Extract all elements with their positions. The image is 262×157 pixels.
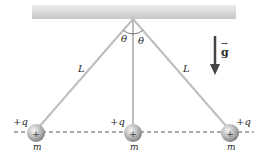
string-left (39, 19, 133, 127)
pendulum-diagram: + + + θ θ L L → g +q +q +q m m m (0, 0, 262, 157)
plus-icon: + (226, 129, 234, 139)
plus-icon: + (32, 129, 40, 139)
charge-label-center: +q (110, 117, 125, 127)
charge-label-right: +q (236, 117, 251, 127)
angle-label-right: θ (138, 36, 144, 46)
string-right (133, 19, 227, 127)
angle-label-left: θ (121, 34, 127, 44)
angle-arc-right (133, 30, 143, 34)
length-label-left: L (78, 64, 85, 74)
sphere-center: + (124, 124, 142, 142)
mass-label-right: m (227, 143, 236, 152)
plus-icon: + (129, 129, 137, 139)
diagram-canvas: + + + (0, 0, 262, 157)
mass-label-left: m (33, 143, 42, 152)
sphere-left: + (27, 124, 45, 142)
gravity-label: → g (221, 47, 229, 58)
length-label-right: L (183, 64, 190, 74)
ceiling (32, 5, 236, 19)
mass-label-center: m (130, 143, 139, 152)
gravity-arrow-icon (210, 36, 220, 75)
charge-label-left: +q (13, 117, 28, 127)
vector-arrow: → (221, 40, 228, 48)
